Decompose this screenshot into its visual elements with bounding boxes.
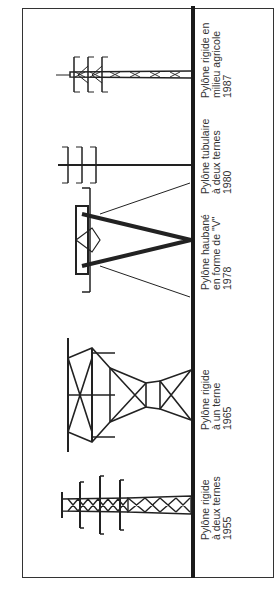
pylon-1965-icon [68, 338, 191, 452]
label-1955: Pylône rigide à deux ternes 1955 [200, 476, 233, 540]
pylon-illustrations [0, 0, 280, 592]
label-1980: Pylône tubulaire à deux ternes 1980 [200, 119, 233, 194]
pylon-1955-icon [62, 476, 191, 534]
label-1965: Pylône rigide à un terne 1965 [200, 369, 233, 430]
label-1987: Pylône rigide en milieu agricole 1987 [200, 23, 233, 98]
label-1978: Pylône haubané en forme de "V" 1978 [200, 214, 233, 290]
pylon-1980-icon [58, 147, 191, 183]
pylon-1987-icon [56, 57, 191, 92]
pylon-1978-icon [76, 183, 191, 297]
pylon-evolution-diagram: Pylône rigide à deux ternes 1955 Pylône … [0, 0, 280, 592]
